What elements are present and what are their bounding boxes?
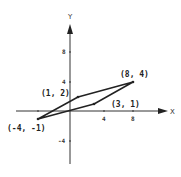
- point-label-1-2: (1, 2): [41, 89, 70, 98]
- point-label-3-1: (3, 1): [111, 100, 140, 109]
- x-tick-label-4: 4: [102, 115, 106, 122]
- y-axis-label: Y: [67, 13, 73, 21]
- y-tick-label-4: 4: [62, 78, 66, 85]
- point-label-8-4: (8, 4): [120, 70, 149, 79]
- vertex-neg4-neg1: [37, 118, 40, 121]
- vertex-8-4: [132, 81, 135, 84]
- x-axis-arrow-icon: [158, 108, 168, 114]
- coordinate-plane: X Y 4 8 8 4 -4 (-4, -1) (1, 2) (8, 4) (3…: [0, 0, 181, 177]
- x-axis-label: X: [170, 108, 175, 116]
- point-label-neg4-neg1: (-4, -1): [7, 124, 46, 133]
- y-tick-label-neg4: -4: [58, 137, 66, 144]
- vertex-3-1: [93, 103, 96, 106]
- vertex-1-2: [77, 96, 80, 99]
- y-tick-label-8: 8: [62, 48, 66, 55]
- y-axis-arrow-icon: [67, 24, 73, 34]
- x-tick-label-8: 8: [131, 115, 135, 122]
